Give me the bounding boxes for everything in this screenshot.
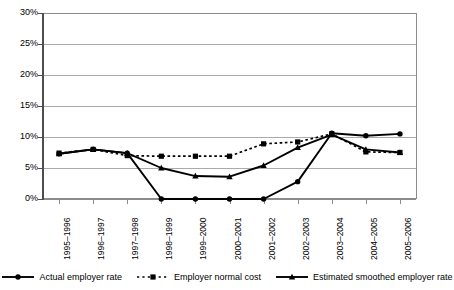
x-tick-label: 2001–2002 [268,217,277,260]
y-tick-label: 25% [4,39,38,48]
x-tick-mark [366,200,367,204]
x-tick-mark [264,200,265,204]
y-tick-mark [38,168,42,169]
x-tick-label: 2003–2004 [336,217,345,260]
plot-area [42,13,417,199]
y-tick-label: 15% [4,101,38,110]
x-tick-mark [195,200,196,204]
circle-marker [16,274,21,279]
x-tick-label: 2004–2005 [370,217,379,260]
x-tick-mark [59,200,60,204]
y-axis-labels: 30%25%20%15%10%5%0% [0,0,38,290]
x-tick-label: 1996–1997 [97,217,106,260]
chart-legend: Actual employer rateEmployer normal cost… [0,268,454,286]
chart-container: 30%25%20%15%10%5%0% 1995–19961996–199719… [0,0,454,290]
square-marker [150,274,155,279]
legend-label: Estimated smoothed employer rate [313,272,453,282]
y-tick-mark [38,199,42,200]
x-tick-mark [400,200,401,204]
y-tick-mark [38,106,42,107]
x-tick-label: 2000–2001 [234,217,243,260]
x-tick-label: 2002–2003 [302,217,311,260]
gridline-25 [43,44,416,45]
x-tick-mark [332,200,333,204]
y-axis-spine [42,13,44,200]
y-tick-label: 30% [4,8,38,17]
x-tick-label: 2005–2006 [404,217,413,260]
y-tick-mark [38,44,42,45]
y-tick-label: 5% [4,163,38,172]
gridline-15 [43,106,416,107]
x-tick-label: 1998–1999 [165,217,174,260]
gridline-20 [43,75,416,76]
x-tick-label: 1999–2000 [199,217,208,260]
x-tick-mark [230,200,231,204]
square-marker [136,272,170,282]
y-tick-mark [38,137,42,138]
y-tick-label: 10% [4,132,38,141]
legend-label: Actual employer rate [39,272,122,282]
x-tick-label: 1995–1996 [63,217,72,260]
y-tick-mark [38,13,42,14]
legend-label: Employer normal cost [174,272,261,282]
x-tick-mark [298,200,299,204]
gridline-5 [43,168,416,169]
x-tick-mark [93,200,94,204]
triangle-marker [275,272,309,282]
y-tick-label: 20% [4,70,38,79]
legend-item: Estimated smoothed employer rate [275,272,453,282]
circle-marker [1,272,35,282]
gridline-10 [43,137,416,138]
x-tick-mark [161,200,162,204]
y-tick-label: 0% [4,194,38,203]
x-tick-mark [127,200,128,204]
legend-item: Employer normal cost [136,272,261,282]
y-tick-mark [38,75,42,76]
legend-item: Actual employer rate [1,272,122,282]
x-tick-label: 1997–1998 [131,217,140,260]
